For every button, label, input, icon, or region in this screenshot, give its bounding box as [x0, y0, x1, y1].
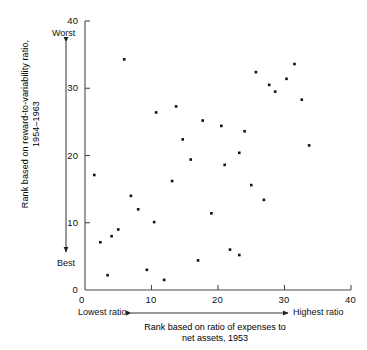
data-point — [285, 78, 288, 81]
data-point — [308, 144, 311, 147]
plot-canvas — [0, 0, 367, 350]
data-point — [300, 98, 303, 101]
data-point — [220, 125, 223, 128]
data-point — [155, 111, 158, 114]
x-tick-label: 40 — [345, 294, 356, 305]
data-point — [223, 164, 226, 167]
data-point — [106, 274, 109, 277]
y-tick-label: 30 — [67, 82, 78, 93]
data-point — [123, 58, 126, 61]
y-tick-label: 20 — [67, 150, 78, 161]
data-point-layer — [93, 58, 310, 281]
y-axis-caption-line2: 1954–1963 — [31, 39, 42, 209]
axis-layer — [85, 21, 351, 290]
data-point — [163, 279, 166, 282]
data-point — [99, 241, 102, 244]
data-point — [201, 119, 204, 122]
x-tick-label: 0 — [79, 294, 84, 305]
data-point — [229, 248, 232, 251]
data-point — [250, 184, 253, 187]
y-tick-label: 10 — [67, 217, 78, 228]
data-point — [274, 90, 277, 93]
data-point — [110, 235, 113, 238]
x-axis-caption-line2: net assets, 1953 — [80, 333, 350, 344]
data-point — [238, 254, 241, 257]
data-point — [238, 152, 241, 155]
data-point — [189, 158, 192, 161]
data-point — [137, 208, 140, 211]
data-point — [255, 71, 258, 74]
x-axis-caption: Rank based on ratio of expenses to net a… — [80, 322, 350, 344]
x-tick-label: 10 — [146, 294, 157, 305]
y-axis-low-anchor-label: Best — [57, 258, 75, 268]
data-point — [181, 138, 184, 141]
data-point — [243, 130, 246, 133]
data-point — [210, 212, 213, 215]
data-point — [93, 174, 96, 177]
data-point — [175, 105, 178, 108]
y-tick-label: 40 — [67, 15, 78, 26]
data-point — [263, 199, 266, 202]
data-point — [268, 84, 271, 87]
data-point — [293, 63, 296, 66]
x-tick-label: 30 — [279, 294, 290, 305]
y-axis-caption: Rank based on reward-to-variability rati… — [20, 39, 44, 209]
y-tick-label: 0 — [73, 284, 78, 295]
scatter-plot-figure: 010203040010203040 Worst Best Lowest rat… — [0, 0, 367, 350]
x-axis-high-anchor-label: Highest ratio — [293, 307, 344, 317]
data-point — [153, 221, 156, 224]
y-axis-high-anchor-label: Worst — [52, 28, 75, 38]
x-tick-label: 20 — [212, 294, 223, 305]
x-axis-caption-line1: Rank based on ratio of expenses to — [80, 322, 350, 333]
data-point — [117, 228, 120, 231]
data-point — [146, 269, 149, 272]
data-point — [197, 259, 200, 262]
data-point — [130, 195, 133, 198]
x-axis-low-anchor-label: Lowest ratio — [78, 307, 127, 317]
data-point — [171, 180, 174, 183]
y-axis-caption-line1: Rank based on reward-to-variability rati… — [20, 39, 31, 209]
direction-arrow-layer — [66, 42, 288, 313]
